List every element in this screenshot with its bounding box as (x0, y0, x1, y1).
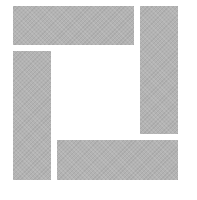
logo-bar-right (140, 6, 178, 134)
logo-bar-bottom (57, 140, 178, 180)
logo-bar-top (13, 6, 134, 45)
logo-bar-left (13, 51, 51, 180)
square-frame-logo (0, 0, 197, 200)
